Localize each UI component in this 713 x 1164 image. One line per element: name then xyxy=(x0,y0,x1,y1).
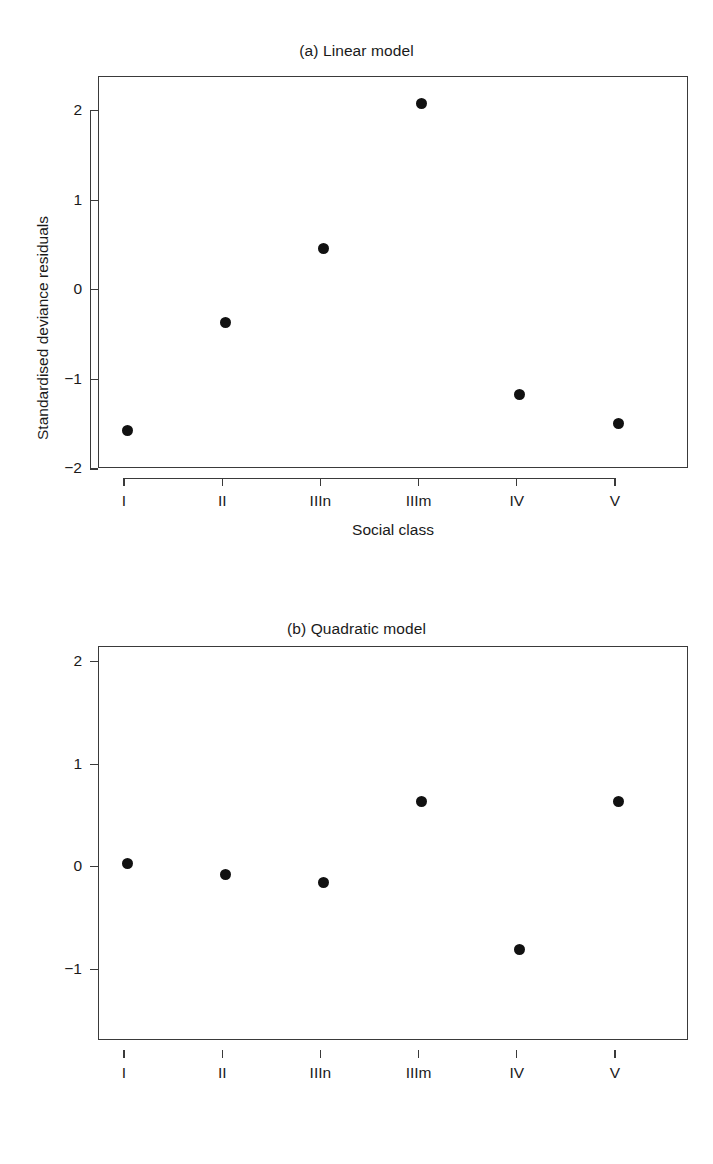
x-tick-mark xyxy=(222,1050,223,1058)
x-tick-label: V xyxy=(580,493,650,509)
x-tick-label: IV xyxy=(482,493,552,509)
y-tick-mark xyxy=(90,289,98,290)
panel-title-b: (b) Quadratic model xyxy=(0,620,713,638)
x-tick-mark xyxy=(320,478,321,486)
x-axis-line-a xyxy=(124,478,615,479)
plot-area-b xyxy=(98,646,688,1040)
x-tick-mark xyxy=(614,1050,615,1058)
x-tick-mark xyxy=(320,1050,321,1058)
y-tick-label: 0 xyxy=(34,858,82,874)
x-tick-label: IIIn xyxy=(285,493,355,509)
y-tick-mark xyxy=(90,200,98,201)
y-tick-label-wrap: 0 xyxy=(0,858,82,874)
x-tick-mark xyxy=(418,478,419,486)
data-point xyxy=(416,796,427,807)
y-tick-mark xyxy=(90,969,98,970)
y-tick-label-wrap: −1 xyxy=(0,961,82,977)
y-tick-mark xyxy=(90,110,98,111)
data-point xyxy=(122,858,133,869)
x-tick-label: II xyxy=(187,493,257,509)
y-tick-label-wrap: 2 xyxy=(0,653,82,669)
y-tick-label: 1 xyxy=(34,756,82,772)
panel-title-a: (a) Linear model xyxy=(0,42,713,60)
x-tick-label: IIIm xyxy=(384,1065,454,1081)
y-tick-label: 2 xyxy=(34,653,82,669)
panel-quadratic-model: (b) Quadratic model 210−1 IIIIIInIIImIVV… xyxy=(0,578,713,1164)
y-tick-mark xyxy=(90,468,98,469)
data-point xyxy=(514,944,525,955)
x-tick-mark xyxy=(123,478,124,486)
y-tick-label-wrap: −2 xyxy=(0,460,82,476)
y-tick-label-wrap: 1 xyxy=(0,756,82,772)
x-tick-mark xyxy=(418,1050,419,1058)
data-point xyxy=(220,317,231,328)
x-tick-mark xyxy=(123,1050,124,1058)
y-tick-mark xyxy=(90,764,98,765)
y-tick-label: −1 xyxy=(34,961,82,977)
y-tick-label: 1 xyxy=(34,192,82,208)
x-tick-label: IIIm xyxy=(384,493,454,509)
y-tick-label: −2 xyxy=(34,460,82,476)
x-axis-title-a: Social class xyxy=(98,521,688,539)
y-tick-label: 2 xyxy=(34,102,82,118)
x-tick-label: V xyxy=(580,1065,650,1081)
x-tick-mark xyxy=(516,478,517,486)
x-tick-mark xyxy=(614,478,615,486)
x-tick-label: IIIn xyxy=(285,1065,355,1081)
y-axis-title-a: Standardised deviance residuals xyxy=(34,216,52,440)
plot-area-a xyxy=(98,76,688,468)
x-tick-label: I xyxy=(89,1065,159,1081)
data-point xyxy=(514,389,525,400)
data-point xyxy=(613,418,624,429)
data-point xyxy=(122,425,133,436)
x-tick-label: IV xyxy=(482,1065,552,1081)
data-point xyxy=(220,869,231,880)
x-tick-mark xyxy=(222,478,223,486)
y-tick-mark xyxy=(90,866,98,867)
data-point xyxy=(318,877,329,888)
y-tick-mark xyxy=(90,661,98,662)
y-tick-label-wrap: 2 xyxy=(0,102,82,118)
x-tick-label: II xyxy=(187,1065,257,1081)
data-point xyxy=(613,796,624,807)
x-tick-mark xyxy=(516,1050,517,1058)
panel-linear-model: (a) Linear model 210−1−2 IIIIIInIIImIVV … xyxy=(0,0,713,600)
figure-page: (a) Linear model 210−1−2 IIIIIInIIImIVV … xyxy=(0,0,713,1164)
y-tick-label-wrap: 1 xyxy=(0,192,82,208)
x-tick-label: I xyxy=(89,493,159,509)
y-tick-mark xyxy=(90,379,98,380)
